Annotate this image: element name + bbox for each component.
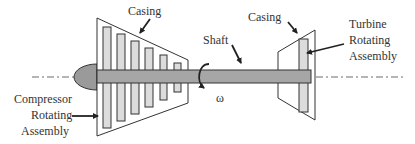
label-compressor-line1: Compressor bbox=[14, 92, 72, 106]
arrow-shaft bbox=[232, 45, 241, 63]
nose-cone bbox=[74, 64, 97, 90]
gas-turbine-diagram: Casing Casing Shaft ω Compressor Rotatin… bbox=[0, 0, 415, 144]
label-turbine-line1: Turbine bbox=[349, 17, 387, 31]
label-shaft: Shaft bbox=[203, 33, 229, 47]
label-casing-right: Casing bbox=[248, 10, 281, 24]
label-casing-left: Casing bbox=[128, 4, 161, 18]
arrow-casing-left bbox=[140, 19, 150, 33]
arrow-casing-right bbox=[288, 22, 297, 33]
label-turbine-line3: Assembly bbox=[349, 49, 397, 63]
label-compressor-line3: Assembly bbox=[21, 124, 69, 138]
label-compressor-line2: Rotating bbox=[31, 108, 72, 122]
label-omega: ω bbox=[216, 91, 224, 105]
label-turbine-line2: Rotating bbox=[349, 33, 390, 47]
shaft bbox=[97, 70, 311, 83]
